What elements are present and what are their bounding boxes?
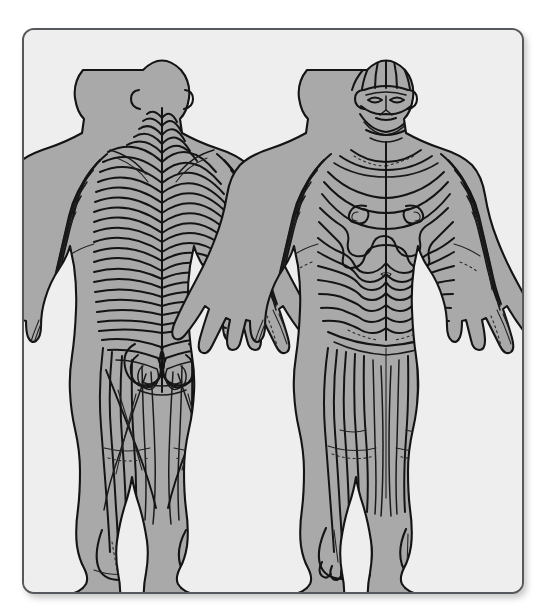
illustration-card (22, 28, 524, 594)
dermatome-plate-svg (24, 30, 522, 592)
